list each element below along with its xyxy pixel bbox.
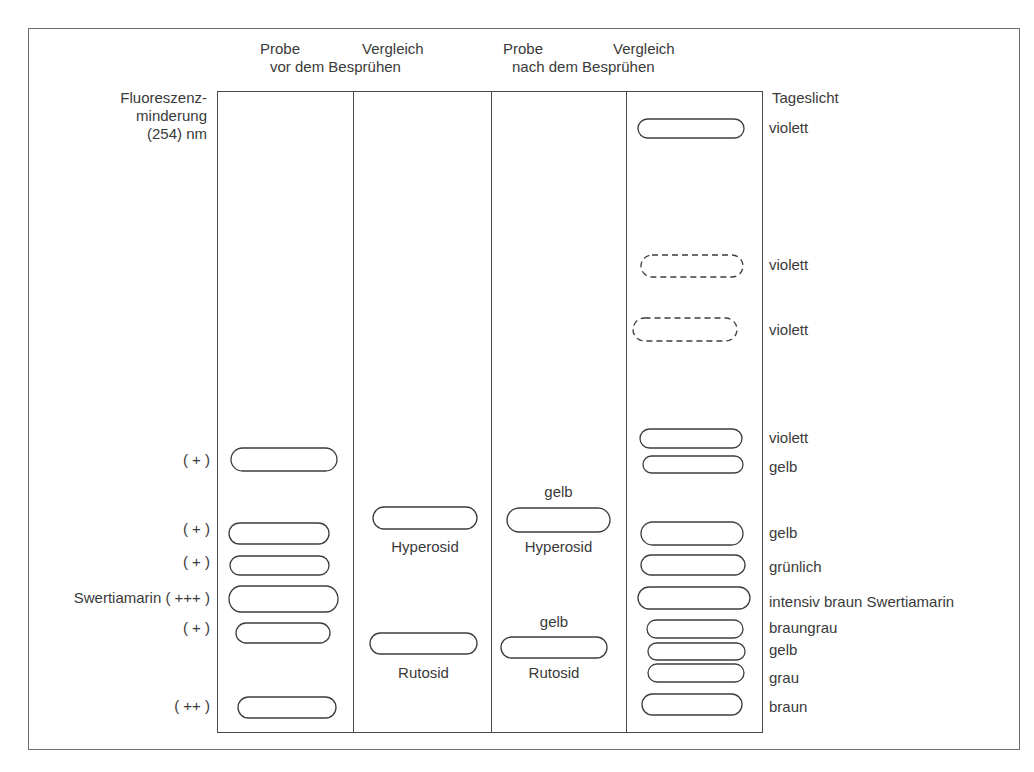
band-name-label: Rutosid xyxy=(494,664,614,682)
header-vergleich-before: Vergleich xyxy=(362,40,424,58)
lane-divider-2 xyxy=(491,91,492,733)
band-name-label: Hyperosid xyxy=(365,538,485,556)
header-vergleich-after: Vergleich xyxy=(613,40,675,58)
lane-divider-3 xyxy=(626,91,627,733)
left-axis-title-line3: (254) nm xyxy=(60,125,207,143)
header-group-after: nach dem Besprühen xyxy=(512,58,655,76)
band-color-label: gelb xyxy=(499,483,619,501)
header-group-before: vor dem Besprühen xyxy=(270,58,401,76)
left-axis-title-line1: Fluoreszenz- xyxy=(60,89,207,107)
right-axis-label: gelb xyxy=(769,524,797,542)
left-axis-title-line2: minderung xyxy=(60,107,207,125)
left-axis-label: ( + ) xyxy=(30,553,210,571)
left-axis-label: ( + ) xyxy=(30,451,210,469)
right-axis-label: intensiv braun Swertiamarin xyxy=(769,593,954,611)
right-axis-label: grünlich xyxy=(769,558,822,576)
left-axis-label: Swertiamarin ( +++ ) xyxy=(30,589,210,607)
right-axis-label: violett xyxy=(769,119,808,137)
left-axis-label: ( + ) xyxy=(30,619,210,637)
band-name-label: Rutosid xyxy=(364,664,484,682)
right-axis-label: gelb xyxy=(769,458,797,476)
right-axis-label: braungrau xyxy=(769,619,837,637)
lane-divider-1 xyxy=(353,91,354,733)
left-axis-label: ( + ) xyxy=(30,520,210,538)
right-axis-title: Tageslicht xyxy=(772,89,839,107)
header-probe-after: Probe xyxy=(503,40,543,58)
tlc-plate xyxy=(217,91,763,733)
header-probe-before: Probe xyxy=(260,40,300,58)
right-axis-label: violett xyxy=(769,321,808,339)
right-axis-label: gelb xyxy=(769,641,797,659)
right-axis-label: grau xyxy=(769,669,799,687)
band-name-label: Hyperosid xyxy=(499,538,619,556)
band-color-label: gelb xyxy=(494,613,614,631)
left-axis-label: ( ++ ) xyxy=(30,697,210,715)
right-axis-label: violett xyxy=(769,256,808,274)
right-axis-label: violett xyxy=(769,429,808,447)
right-axis-label: braun xyxy=(769,698,807,716)
